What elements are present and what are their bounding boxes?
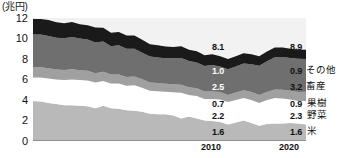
total-value-2020: 8.9 bbox=[276, 42, 302, 52]
y-tick-6: 6 bbox=[2, 74, 28, 85]
fruit-value-2010: 0.7 bbox=[198, 99, 224, 109]
stacked-area-plot bbox=[33, 18, 306, 141]
other-value-2020: 0.9 bbox=[276, 66, 302, 76]
series-label-vegetables: 野菜 bbox=[307, 110, 327, 120]
x-axis-line bbox=[33, 140, 306, 141]
rice-value-2010: 1.6 bbox=[198, 127, 224, 137]
series-label-rice: 米 bbox=[307, 126, 317, 136]
series-label-fruit: 果樹 bbox=[307, 98, 327, 108]
y-tick-0: 0 bbox=[2, 136, 28, 147]
y-axis-unit-label: (兆円) bbox=[2, 1, 27, 12]
livestock-value-2020: 3.2 bbox=[276, 82, 302, 92]
total-value-2010: 8.1 bbox=[198, 42, 224, 52]
fruit-value-2020: 0.9 bbox=[276, 99, 302, 109]
series-label-livestock: 畜産 bbox=[306, 81, 326, 91]
y-tick-8: 8 bbox=[2, 54, 28, 65]
livestock-value-2010: 2.5 bbox=[198, 82, 224, 92]
chart-figure: (兆円) 12 10 8 6 4 2 0 8.1 8.9 1.0 0.9 2.5… bbox=[0, 0, 344, 158]
y-tick-12: 12 bbox=[2, 13, 28, 24]
other-value-2010: 1.0 bbox=[198, 66, 224, 76]
vegetables-value-2010: 2.2 bbox=[198, 111, 224, 121]
vegetables-value-2020: 2.3 bbox=[276, 111, 302, 121]
area-svg bbox=[33, 18, 306, 141]
cropped-caption-sliver bbox=[0, 151, 344, 158]
y-tick-10: 10 bbox=[2, 33, 28, 44]
series-label-other: その他 bbox=[306, 65, 336, 75]
rice-value-2020: 1.6 bbox=[276, 127, 302, 137]
y-tick-4: 4 bbox=[2, 95, 28, 106]
y-tick-2: 2 bbox=[2, 115, 28, 126]
